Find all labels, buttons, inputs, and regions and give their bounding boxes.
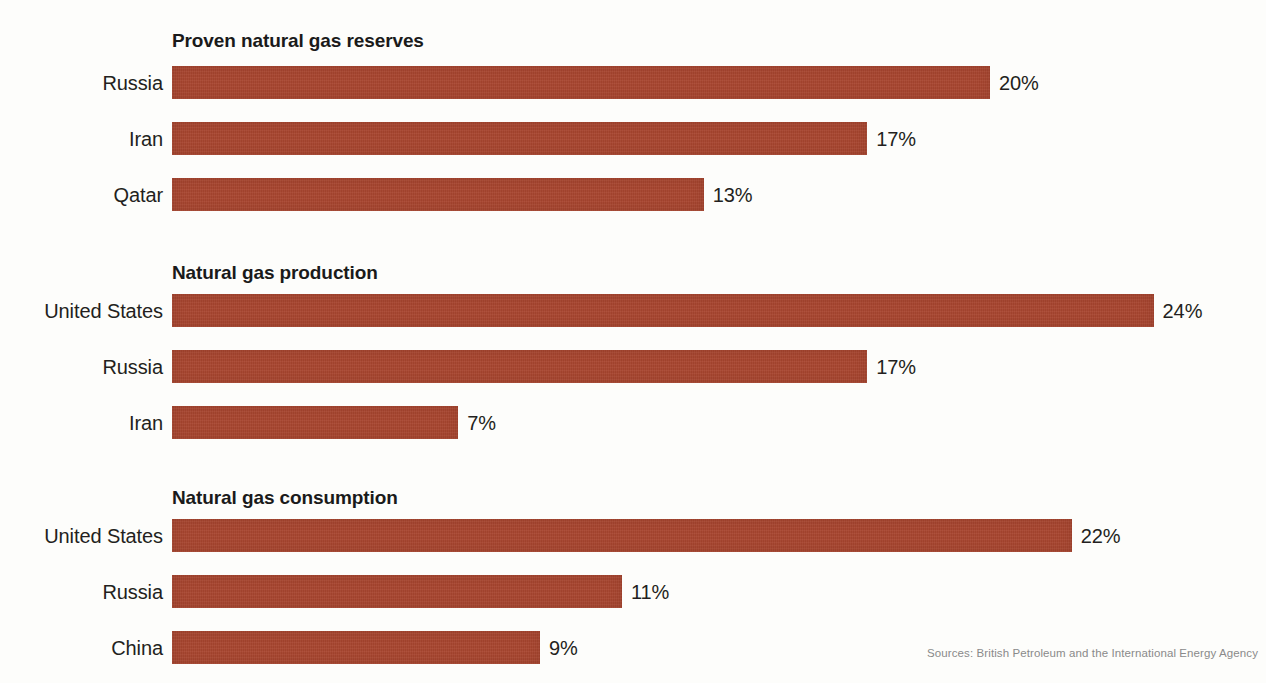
bar-category-label: Qatar (0, 183, 163, 206)
bar-value-label: 22% (1081, 526, 1121, 546)
bar-fill (172, 294, 1154, 327)
bar-category-label: China (0, 636, 163, 659)
bar-track: 11% (172, 575, 669, 608)
bar-track: 9% (172, 631, 578, 664)
bar-row: Iran 7% (0, 406, 1266, 439)
bar-fill (172, 350, 867, 383)
bar-category-label: Iran (0, 127, 163, 150)
panel-title-production: Natural gas production (172, 262, 378, 284)
bar-track: 13% (172, 178, 752, 211)
bar-track: 20% (172, 66, 1039, 99)
panel-title-consumption: Natural gas consumption (172, 487, 398, 509)
bar-value-label: 7% (467, 413, 496, 433)
bar-category-label: Iran (0, 411, 163, 434)
bar-value-label: 11% (631, 582, 669, 602)
bar-fill (172, 66, 990, 99)
sources-note: Sources: British Petroleum and the Inter… (927, 647, 1258, 659)
bar-track: 22% (172, 519, 1121, 552)
bar-row: Russia 11% (0, 575, 1266, 608)
bar-fill (172, 631, 540, 664)
bar-row: United States 24% (0, 294, 1266, 327)
bar-row: United States 22% (0, 519, 1266, 552)
bar-category-label: Russia (0, 71, 163, 94)
bar-value-label: 24% (1163, 301, 1203, 321)
bar-track: 24% (172, 294, 1202, 327)
bar-row: Russia 17% (0, 350, 1266, 383)
bar-value-label: 9% (549, 638, 578, 658)
panel-title-reserves: Proven natural gas reserves (172, 30, 424, 52)
chart-canvas: Proven natural gas reserves Russia 20% I… (0, 0, 1266, 683)
bar-track: 17% (172, 122, 916, 155)
bar-track: 7% (172, 406, 496, 439)
bar-row: Russia 20% (0, 66, 1266, 99)
bar-value-label: 17% (876, 357, 916, 377)
bar-fill (172, 122, 867, 155)
bar-row: Qatar 13% (0, 178, 1266, 211)
bar-fill (172, 178, 704, 211)
bar-category-label: Russia (0, 580, 163, 603)
bar-category-label: United States (0, 524, 163, 547)
bar-value-label: 13% (713, 185, 753, 205)
bar-value-label: 17% (876, 129, 916, 149)
bar-fill (172, 575, 622, 608)
bar-fill (172, 519, 1072, 552)
bar-row: Iran 17% (0, 122, 1266, 155)
bar-category-label: United States (0, 299, 163, 322)
bar-fill (172, 406, 458, 439)
bar-category-label: Russia (0, 355, 163, 378)
bar-track: 17% (172, 350, 916, 383)
bar-value-label: 20% (999, 73, 1039, 93)
